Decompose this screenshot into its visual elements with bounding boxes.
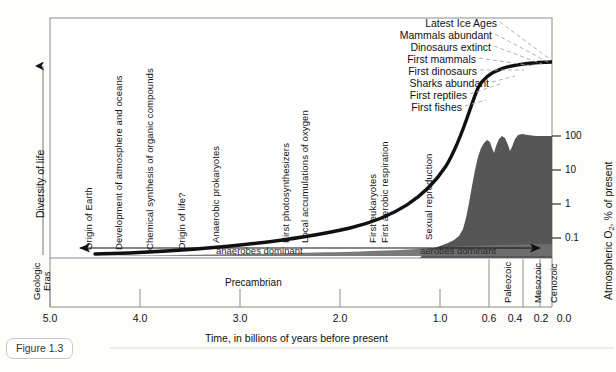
- event-label-chemical-synthesis-of-organic-compounds: Chemical synthesis of organic compounds: [145, 68, 155, 250]
- event-label-anaerobic-prokaryotes: Anaerobic prokaryotes: [211, 146, 221, 243]
- y-axis-label-oxygen: Atmospheric O2, % of present: [602, 162, 616, 300]
- event-label-first-aerobic-respiration: First aerobic respiration: [380, 141, 390, 243]
- x-tick-2.0: 2.0: [320, 312, 360, 324]
- era-label-cenozoic: Cenozoic: [548, 263, 559, 303]
- y-right-tick-0.1: 0.1: [565, 232, 579, 243]
- y-right-ticks: [552, 136, 561, 238]
- event-label-first-photosynthesizers: First photosynthesizers: [281, 143, 291, 243]
- y-right-tick-10: 10: [565, 164, 576, 175]
- y-right-tick-1: 1: [565, 198, 571, 209]
- event-label-first-fishes: First fishes: [297, 102, 462, 113]
- event-label-first-mammals: First mammals: [297, 54, 476, 65]
- event-label-local-accumulations-of-oxygen: Local accumulations of oxygen: [300, 110, 310, 243]
- event-label-development-of-atmosphere-and-oceans: Development of atmosphere and oceans: [114, 75, 124, 250]
- y-right-tick-100: 100: [565, 130, 582, 141]
- event-label-latest-ice-ages: Latest Ice Ages: [297, 18, 497, 29]
- figure-caption-tag: Figure 1.3: [6, 338, 73, 359]
- event-label-dinosaurs-extinct: Dinosaurs extinct: [297, 42, 491, 53]
- event-label-first-eukaryotes: First eukaryotes: [368, 174, 378, 243]
- x-tick-5.0: 5.0: [30, 312, 70, 324]
- y-axis-label-oxygen-subscript: 2: [607, 226, 616, 230]
- event-label-sexual-reproduction: Sexual reproduction: [424, 154, 434, 240]
- x-tick-0.0: 0.0: [544, 312, 584, 324]
- geologic-eras-label: Geologic Eras: [32, 263, 52, 301]
- x-ticks: [50, 289, 440, 307]
- event-label-first-reptiles: First reptiles: [297, 90, 467, 101]
- band-label-aerobes-dominant: aerobes dominant: [420, 245, 496, 256]
- x-axis-label: Time, in billions of years before presen…: [205, 332, 388, 344]
- geologic-eras-line2: Eras: [41, 271, 52, 291]
- era-label-paleozoic: Paleozoic: [502, 262, 513, 303]
- era-label-mesozoic: Mesozoic: [532, 263, 543, 303]
- event-label-mammals-abundant: Mammals abundant: [297, 30, 492, 41]
- era-label-precambrian: Precambrian: [225, 278, 282, 288]
- event-label-origin-of-life: Origin of life?: [177, 193, 187, 250]
- event-label-first-dinosaurs: First dinosaurs: [297, 66, 477, 77]
- x-tick-4.0: 4.0: [120, 312, 160, 324]
- y-axis-label-diversity: Diversity of life: [34, 150, 46, 218]
- event-label-sharks-abundant: Sharks abundant: [297, 78, 489, 89]
- band-label-anaerobes-dominant: anaerobes dominant: [216, 245, 303, 256]
- event-label-origin-of-earth: Origin of Earth: [84, 187, 94, 250]
- y-axis-label-oxygen-part2: , % of present: [602, 162, 614, 227]
- y-axis-label-oxygen-part1: Atmospheric O: [602, 231, 614, 300]
- x-tick-1.0: 1.0: [420, 312, 460, 324]
- x-tick-3.0: 3.0: [220, 312, 260, 324]
